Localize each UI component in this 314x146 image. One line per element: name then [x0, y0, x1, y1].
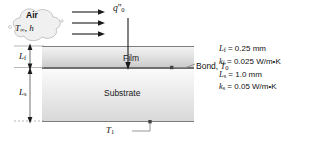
base-temperature-leader-line: [132, 120, 152, 131]
flux-subscript: 0: [121, 6, 124, 13]
parameter-subscript: s: [224, 72, 226, 79]
film-thickness-label: Lf: [19, 51, 26, 61]
substrate-thickness-subscript: s: [24, 90, 27, 97]
parameter-row: ks = 0.05 W/m•K: [219, 81, 281, 94]
parameter-subscript: s: [223, 85, 225, 92]
diagram-canvas: Film Substrate: [0, 0, 314, 146]
parameter-list: Lf = 0.25 mm kf = 0.025 W/m•K Ls = 1.0 m…: [219, 43, 281, 94]
base-temperature-label: T1: [106, 125, 114, 135]
bond-text: Bond,: [196, 61, 221, 71]
parameter-row: Lf = 0.25 mm: [219, 43, 281, 56]
heat-flux-label: q″0: [113, 3, 124, 13]
parameter-subscript: f: [223, 59, 225, 66]
parameter-subscript: f: [224, 46, 226, 53]
film-thickness-subscript: f: [24, 54, 26, 61]
bond-leader-line: [170, 64, 195, 69]
parameter-value: = 1.0 mm: [228, 70, 262, 79]
ambient-condition-label: T∞, h: [15, 23, 34, 33]
parameter-value: = 0.025 W/m•K: [227, 57, 281, 66]
substrate-thickness-label: Ls: [19, 87, 27, 97]
base-temperature-subscript: 1: [111, 128, 114, 135]
parameter-row: Ls = 1.0 mm: [219, 69, 281, 82]
parameter-value: = 0.05 W/m•K: [227, 82, 276, 91]
parameter-row: kf = 0.025 W/m•K: [219, 56, 281, 69]
parameter-value: = 0.25 mm: [228, 44, 266, 53]
air-medium-label: Air: [26, 10, 38, 20]
heat-flux-arrow: [125, 18, 130, 70]
convection-arrows: [72, 9, 105, 36]
convection-coefficient-symbol: h: [29, 23, 34, 33]
